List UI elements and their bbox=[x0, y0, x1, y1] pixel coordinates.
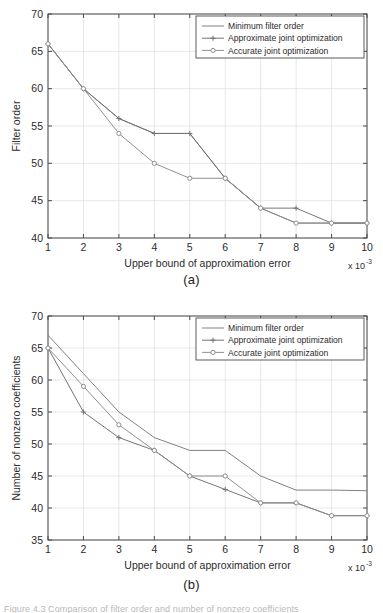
svg-text:2: 2 bbox=[81, 543, 87, 555]
svg-text:70: 70 bbox=[31, 310, 43, 322]
series-line bbox=[46, 346, 369, 518]
svg-text:60: 60 bbox=[31, 82, 43, 94]
y-axis-title: Filter order bbox=[10, 100, 22, 151]
svg-text:6: 6 bbox=[222, 543, 228, 555]
plot-area-a: 1234567891040455055606570Upper bound of … bbox=[0, 0, 383, 300]
svg-text:2: 2 bbox=[81, 241, 87, 253]
svg-text:35: 35 bbox=[31, 534, 43, 546]
y-axis-tick-labels: 3540455055606570 bbox=[31, 310, 43, 546]
x-axis-title: Upper bound of approximation error bbox=[124, 559, 291, 571]
svg-text:9: 9 bbox=[329, 543, 335, 555]
svg-text:5: 5 bbox=[187, 543, 193, 555]
svg-text:3: 3 bbox=[116, 241, 122, 253]
svg-text:6: 6 bbox=[222, 241, 228, 253]
data-series-group bbox=[45, 41, 369, 225]
y-axis-title: Number of nonzero coefficients bbox=[10, 355, 22, 500]
panel-sublabel-b: (b) bbox=[0, 577, 383, 592]
svg-text:8: 8 bbox=[293, 543, 299, 555]
figure-container: 1234567891040455055606570Upper bound of … bbox=[0, 0, 383, 613]
svg-text:x 10: x 10 bbox=[348, 563, 365, 573]
chart-legend: Minimum filter orderApproximate joint op… bbox=[196, 16, 364, 58]
svg-text:65: 65 bbox=[31, 45, 43, 57]
plot-area-b: 123456789103540455055606570Upper bound o… bbox=[0, 300, 383, 600]
x-axis-tick-labels: 12345678910 bbox=[45, 241, 373, 253]
svg-text:9: 9 bbox=[329, 241, 335, 253]
svg-text:40: 40 bbox=[31, 232, 43, 244]
svg-text:50: 50 bbox=[31, 438, 43, 450]
legend-entry-label: Minimum filter order bbox=[228, 21, 304, 31]
svg-text:1: 1 bbox=[45, 543, 51, 555]
caption-text: Figure 4.3 Comparison of filter order an… bbox=[0, 604, 383, 613]
legend-entry-label: Approximate joint optimization bbox=[228, 335, 343, 345]
chart-legend: Minimum filter orderApproximate joint op… bbox=[196, 318, 364, 360]
svg-text:10: 10 bbox=[361, 241, 373, 253]
svg-text:4: 4 bbox=[151, 543, 157, 555]
series-line bbox=[45, 345, 369, 518]
svg-text:-3: -3 bbox=[366, 258, 372, 265]
svg-text:10: 10 bbox=[361, 543, 373, 555]
svg-text:55: 55 bbox=[31, 120, 43, 132]
series-line bbox=[46, 42, 369, 225]
svg-text:50: 50 bbox=[31, 157, 43, 169]
chart-svg-b: 123456789103540455055606570Upper bound o… bbox=[0, 300, 383, 600]
svg-text:7: 7 bbox=[258, 543, 264, 555]
svg-text:45: 45 bbox=[31, 470, 43, 482]
svg-text:7: 7 bbox=[258, 241, 264, 253]
svg-text:40: 40 bbox=[31, 502, 43, 514]
y-axis-tick-labels: 40455055606570 bbox=[31, 8, 43, 244]
svg-text:65: 65 bbox=[31, 342, 43, 354]
panel-sublabel-a: (a) bbox=[0, 272, 383, 287]
x-axis-multiplier: x 10-3 bbox=[348, 560, 372, 573]
svg-text:8: 8 bbox=[293, 241, 299, 253]
x-axis-tick-labels: 12345678910 bbox=[45, 543, 373, 555]
x-axis-title: Upper bound of approximation error bbox=[124, 257, 291, 269]
data-series-group bbox=[45, 335, 369, 518]
svg-text:1: 1 bbox=[45, 241, 51, 253]
svg-text:-3: -3 bbox=[366, 560, 372, 567]
chart-panel-b: 123456789103540455055606570Upper bound o… bbox=[0, 300, 383, 600]
chart-svg-a: 1234567891040455055606570Upper bound of … bbox=[0, 0, 383, 300]
svg-text:x 10: x 10 bbox=[348, 261, 365, 271]
svg-text:5: 5 bbox=[187, 241, 193, 253]
chart-panel-a: 1234567891040455055606570Upper bound of … bbox=[0, 0, 383, 300]
legend-entry-label: Approximate joint optimization bbox=[228, 33, 343, 43]
svg-text:55: 55 bbox=[31, 406, 43, 418]
x-axis-multiplier: x 10-3 bbox=[348, 258, 372, 271]
svg-text:45: 45 bbox=[31, 194, 43, 206]
series-line bbox=[45, 41, 369, 225]
svg-text:3: 3 bbox=[116, 543, 122, 555]
legend-entry-label: Minimum filter order bbox=[228, 323, 304, 333]
legend-entry-label: Accurate joint optimization bbox=[228, 348, 329, 358]
svg-text:60: 60 bbox=[31, 374, 43, 386]
figure-caption-fragment: Figure 4.3 Comparison of filter order an… bbox=[0, 604, 383, 613]
series-line bbox=[48, 44, 367, 223]
legend-entry-label: Accurate joint optimization bbox=[228, 46, 329, 56]
svg-text:4: 4 bbox=[151, 241, 157, 253]
svg-text:70: 70 bbox=[31, 8, 43, 20]
